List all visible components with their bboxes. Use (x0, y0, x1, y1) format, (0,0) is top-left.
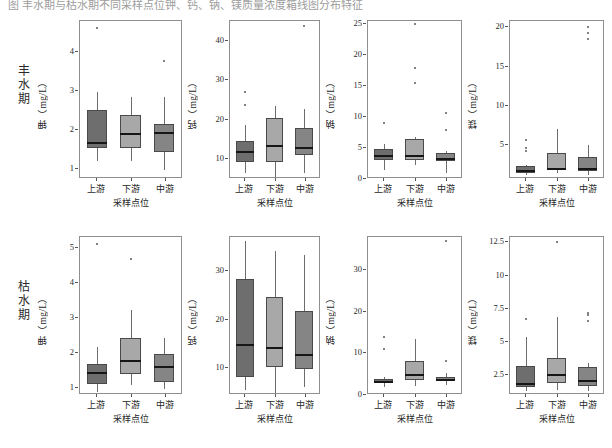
outlier-point (587, 38, 589, 40)
box-plot-中游 (80, 21, 181, 177)
y-axis-tick: 20 (216, 314, 225, 324)
y-axis-tick: 20 (496, 21, 505, 31)
panel-wet-potassium: 钾（mg/L） 1234上游下游中游采样点位 (36, 18, 186, 218)
figure-caption: 图 丰水期与枯水期不同采样点位钾、钙、钠、镁质量浓度箱线图分布特征 (8, 0, 604, 10)
x-axis-label-上游: 上游 (516, 398, 534, 411)
x-axis-title: 采样点位 (367, 412, 462, 425)
panel-wet-calcium: 钙（mg/L） 10203040上游下游中游采样点位 (186, 18, 324, 218)
panel-row-wet-season: 丰水期 钾（mg/L） 1234上游下游中游采样点位 钙（mg/L） 10203… (0, 12, 612, 224)
y-axis-tick: 10 (354, 111, 363, 121)
x-axis-tick (415, 178, 416, 181)
x-axis-tick (131, 178, 132, 181)
y-axis-tick: 2 (70, 347, 74, 357)
x-axis-title: 采样点位 (509, 412, 604, 425)
box-plot-中游 (230, 21, 319, 177)
y-axis-tick: 15 (354, 80, 363, 90)
y-axis-label: 钠（mg/L） (324, 48, 338, 158)
x-axis-label-下游: 下游 (406, 182, 424, 195)
row-label-dry-season: 枯水期 (16, 280, 32, 322)
figure-root: 图 丰水期与枯水期不同采样点位钾、钙、钠、镁质量浓度箱线图分布特征 丰水期 钾（… (0, 0, 612, 448)
y-axis-tick: 20 (354, 49, 363, 59)
x-axis-tick (275, 394, 276, 397)
x-axis-tick (96, 394, 97, 397)
outlier-point (587, 26, 589, 28)
x-axis-label-中游: 中游 (437, 398, 455, 411)
median-line (578, 168, 597, 170)
y-axis-tick: 1 (70, 382, 74, 392)
panel-wet-magnesium: 镁（mg/L） 5101520上游下游中游采样点位 (466, 18, 608, 218)
x-axis-label-中游: 中游 (296, 398, 314, 411)
panel-dry-potassium: 钾（mg/L） 12345上游下游中游采样点位 (36, 234, 186, 434)
y-axis-tick: 3 (70, 85, 74, 95)
box-plot-中游 (80, 237, 181, 393)
x-axis-label-下游: 下游 (548, 398, 566, 411)
x-axis-label-上游: 上游 (374, 182, 392, 195)
panel-dry-magnesium: 镁（mg/L） 2.557.51012.5上游下游中游采样点位 (466, 234, 608, 434)
y-axis-tick: 20 (216, 114, 225, 124)
outlier-point (587, 314, 589, 316)
y-axis-tick: 20 (354, 306, 363, 316)
y-axis-tick: 5 (500, 139, 504, 149)
median-line (295, 354, 313, 356)
x-axis-title: 采样点位 (79, 412, 182, 425)
outlier-point (587, 32, 589, 34)
x-axis-label-中游: 中游 (296, 182, 314, 195)
x-axis-tick (305, 178, 306, 181)
outlier-point (445, 360, 447, 362)
y-axis-label: 钾（mg/L） (36, 48, 50, 158)
median-line (436, 379, 455, 381)
x-axis-label-中游: 中游 (156, 398, 174, 411)
x-axis-tick (305, 394, 306, 397)
box-iqr (578, 367, 597, 386)
box-plot-中游 (368, 237, 461, 393)
x-axis-tick (446, 178, 447, 181)
y-axis-tick: 15 (496, 61, 505, 71)
x-axis-tick (446, 394, 447, 397)
y-axis-tick: 5 (500, 336, 504, 346)
x-axis-title: 采样点位 (367, 196, 462, 209)
x-axis-tick (525, 394, 526, 397)
y-axis-tick: 5 (358, 142, 362, 152)
x-axis-label-上游: 上游 (235, 182, 253, 195)
y-axis-label: 镁（mg/L） (466, 264, 480, 374)
x-axis-label-上游: 上游 (516, 182, 534, 195)
panel-dry-calcium: 钙（mg/L） 102030上游下游中游采样点位 (186, 234, 324, 434)
x-axis-tick (131, 394, 132, 397)
box-plot-中游 (368, 21, 461, 177)
x-axis-tick (588, 394, 589, 397)
x-axis-tick (244, 394, 245, 397)
y-axis-label: 镁（mg/L） (466, 48, 480, 158)
y-axis-tick: 10 (496, 100, 505, 110)
outlier-point (445, 240, 447, 242)
y-axis-tick: 3 (70, 312, 74, 322)
y-axis-tick: 10 (216, 362, 225, 372)
y-axis-tick: 25 (354, 18, 363, 28)
x-axis-label-中游: 中游 (579, 182, 597, 195)
outlier-point (163, 60, 165, 62)
y-axis-label: 钠（mg/L） (324, 264, 338, 374)
x-axis-label-中游: 中游 (437, 182, 455, 195)
x-axis-tick (383, 178, 384, 181)
x-axis-label-下游: 下游 (548, 182, 566, 195)
x-axis-label-上游: 上游 (87, 182, 105, 195)
x-axis-tick (557, 394, 558, 397)
y-axis-tick: 5 (70, 242, 74, 252)
box-iqr (295, 128, 313, 155)
x-axis-tick (244, 178, 245, 181)
x-axis-label-上游: 上游 (87, 398, 105, 411)
y-axis-tick: 2.5 (493, 369, 504, 379)
y-axis-tick: 12.5 (489, 236, 504, 246)
y-axis-tick: 10 (354, 347, 363, 357)
y-axis-tick: 2 (70, 124, 74, 134)
y-axis-label: 钙（mg/L） (186, 264, 200, 374)
outlier-point (587, 320, 589, 322)
x-axis-label-上游: 上游 (235, 398, 253, 411)
y-axis-label: 钙（mg/L） (186, 48, 200, 158)
x-axis-tick (165, 178, 166, 181)
outlier-point (445, 129, 447, 131)
x-axis-title: 采样点位 (79, 196, 182, 209)
x-axis-label-下游: 下游 (406, 398, 424, 411)
y-axis-tick: 30 (216, 265, 225, 275)
x-axis-tick (96, 178, 97, 181)
box-iqr (154, 124, 174, 152)
